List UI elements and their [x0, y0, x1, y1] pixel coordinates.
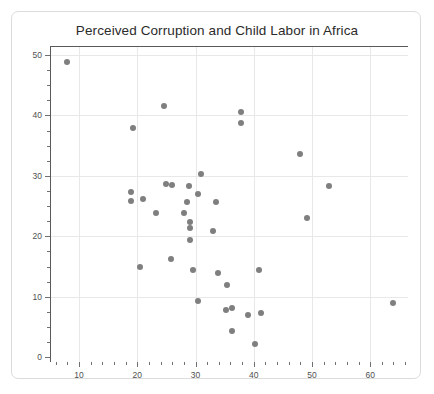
y-axis-tick-label: 50 [26, 50, 42, 60]
scatter-point [140, 196, 146, 202]
x-axis-minor-tick [289, 362, 290, 365]
scatter-point [137, 264, 143, 270]
scatter-point [256, 267, 262, 273]
gridline-vertical [79, 46, 80, 362]
x-axis-minor-tick [382, 362, 383, 365]
gridline-horizontal [50, 55, 408, 56]
x-axis-major-tick [79, 362, 80, 367]
y-axis-tick-label: 40 [26, 110, 42, 120]
x-axis-tick-label: 20 [133, 370, 142, 380]
chart-card: Perceived Corruption and Child Labor in … [11, 11, 421, 379]
scatter-point [128, 189, 134, 195]
x-axis-line [50, 46, 408, 47]
x-axis-major-tick [137, 362, 138, 367]
x-axis-minor-tick [56, 362, 57, 365]
gridline-vertical [312, 46, 313, 362]
scatter-point [195, 191, 201, 197]
scatter-point [215, 270, 221, 276]
x-axis-minor-tick [230, 362, 231, 365]
y-axis-minor-tick [47, 161, 50, 162]
chart-title: Perceived Corruption and Child Labor in … [12, 23, 422, 38]
x-axis-minor-tick [149, 362, 150, 365]
x-axis-minor-tick [393, 362, 394, 365]
scatter-point [297, 151, 303, 157]
y-axis-tick-label: 0 [26, 352, 42, 362]
scatter-point [187, 225, 193, 231]
scatter-point [181, 210, 187, 216]
y-axis-major-tick [45, 115, 50, 116]
scatter-point [210, 228, 216, 234]
scatter-point [258, 310, 264, 316]
gridline-vertical [254, 46, 255, 362]
y-axis-tick-label: 20 [26, 231, 42, 241]
x-axis-tick-label: 10 [74, 370, 83, 380]
scatter-point [168, 256, 174, 262]
x-axis-tick-label: 60 [365, 370, 374, 380]
x-axis-major-tick [312, 362, 313, 367]
x-axis-minor-tick [114, 362, 115, 365]
y-axis-major-tick [45, 55, 50, 56]
x-axis-minor-tick [207, 362, 208, 365]
x-axis-tick-label: 30 [191, 370, 200, 380]
y-axis-tick-label: 30 [26, 171, 42, 181]
scatter-point [229, 328, 235, 334]
y-axis-minor-tick [47, 221, 50, 222]
x-axis-minor-tick [161, 362, 162, 365]
x-axis-tick-label: 40 [249, 370, 258, 380]
scatter-point [169, 182, 175, 188]
scatter-point [153, 210, 159, 216]
y-axis-minor-tick [47, 342, 50, 343]
scatter-point [229, 305, 235, 311]
scatter-point [184, 199, 190, 205]
plot-area [50, 46, 408, 362]
y-axis-minor-tick [47, 85, 50, 86]
gridline-vertical [137, 46, 138, 362]
gridline-vertical [196, 46, 197, 362]
scatter-point [64, 59, 70, 65]
x-axis-minor-tick [335, 362, 336, 365]
y-axis-major-tick [45, 176, 50, 177]
x-axis-minor-tick [184, 362, 185, 365]
x-axis-minor-tick [277, 362, 278, 365]
y-axis-minor-tick [47, 131, 50, 132]
x-axis-major-tick [370, 362, 371, 367]
x-axis-minor-tick [102, 362, 103, 365]
scatter-point [130, 125, 136, 131]
x-axis-minor-tick [347, 362, 348, 365]
y-axis-minor-tick [47, 327, 50, 328]
x-axis-minor-tick [172, 362, 173, 365]
y-axis-minor-tick [47, 251, 50, 252]
y-axis-minor-tick [47, 282, 50, 283]
scatter-point [326, 183, 332, 189]
x-axis-minor-tick [67, 362, 68, 365]
y-axis-major-tick [45, 357, 50, 358]
x-axis-major-tick [196, 362, 197, 367]
scatter-point [252, 341, 258, 347]
scatter-point [190, 267, 196, 273]
scatter-point [304, 215, 310, 221]
x-axis-minor-tick [300, 362, 301, 365]
y-axis-minor-tick [47, 191, 50, 192]
y-axis-minor-tick [47, 70, 50, 71]
y-axis-minor-tick [47, 146, 50, 147]
x-axis-minor-tick [219, 362, 220, 365]
x-axis-minor-tick [324, 362, 325, 365]
y-axis-minor-tick [47, 312, 50, 313]
gridline-horizontal [50, 115, 408, 116]
scatter-plot: 10203040506001020304050 [50, 46, 408, 362]
x-axis-minor-tick [242, 362, 243, 365]
x-axis-minor-tick [126, 362, 127, 365]
scatter-point [390, 300, 396, 306]
x-axis-minor-tick [265, 362, 266, 365]
y-axis-minor-tick [47, 267, 50, 268]
y-axis-major-tick [45, 236, 50, 237]
scatter-point [161, 103, 167, 109]
scatter-point [245, 312, 251, 318]
y-axis-major-tick [45, 297, 50, 298]
scatter-point [238, 120, 244, 126]
y-axis-minor-tick [47, 100, 50, 101]
scatter-point [224, 282, 230, 288]
screenshot-root: Perceived Corruption and Child Labor in … [0, 0, 434, 394]
x-axis-major-tick [254, 362, 255, 367]
gridline-horizontal [50, 297, 408, 298]
